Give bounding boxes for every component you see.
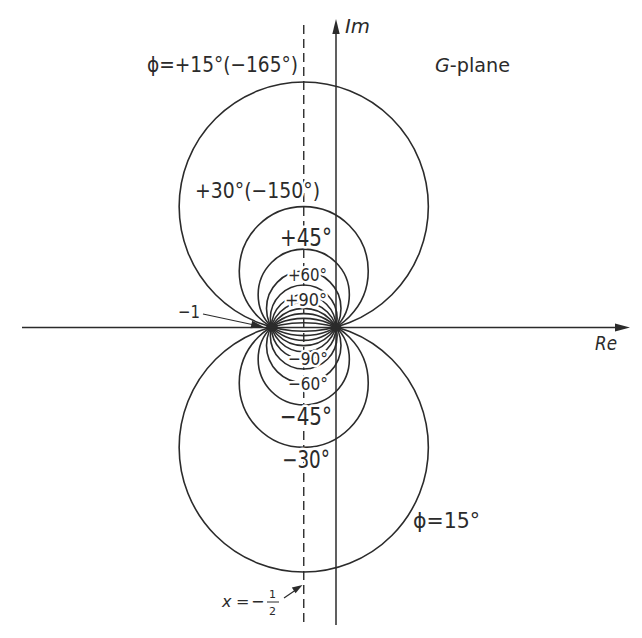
locus-label-minus-90: −90° — [288, 348, 328, 369]
plane-label: G-plane — [435, 53, 510, 77]
locus-label-plus-15: ϕ=+15°(−165°) — [147, 53, 298, 77]
plane-label-variable: G — [435, 53, 450, 77]
locus-label-plus-60: +60° — [288, 265, 327, 285]
asymptote-pointer — [284, 585, 303, 598]
locus-label-plus-90: +90° — [285, 289, 327, 310]
asymptote-label-denominator: 2 — [269, 605, 276, 618]
locus-label-minus-45: −45° — [280, 402, 332, 431]
imaginary-axis-label: Im — [345, 15, 370, 37]
locus-label-minus-30: −30° — [282, 446, 330, 474]
asymptote-pointer-line — [284, 591, 295, 599]
asymptote-label-numerator: 1 — [269, 588, 276, 601]
real-axis-label: Re — [595, 332, 617, 354]
locus-label-plus-30: +30°(−150°) — [195, 179, 320, 203]
locus-label-minus-15: ϕ=15° — [413, 509, 480, 533]
real-axis-arrow-icon — [615, 324, 630, 332]
asymptote-label: x = − 1 2 — [221, 588, 279, 618]
imaginary-axis-arrow-icon — [332, 19, 339, 34]
plane-label-text: -plane — [450, 53, 510, 77]
locus-label-minus-60: −60° — [288, 373, 328, 394]
asymptote-label-variable: x — [221, 592, 232, 611]
locus-label-plus-45: +45° — [280, 223, 332, 252]
asymptote-label-equals: = — [236, 592, 249, 611]
critical-point-label: −1 — [178, 301, 200, 322]
asymptote-label-sign: − — [251, 592, 264, 611]
g-plane-phase-loci-figure: Im Re G-plane −1 ϕ=+15°(−165°) +30°(−150… — [0, 0, 642, 638]
